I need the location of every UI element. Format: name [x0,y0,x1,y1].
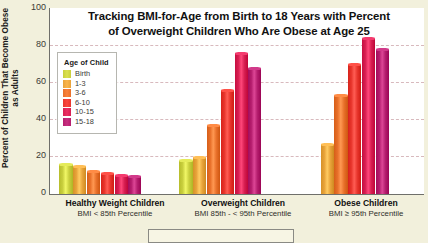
bar[interactable] [59,164,72,194]
bar-cap [348,63,361,66]
legend-label: 15-18 [75,118,94,126]
x-axis-group-label: Obese ChildrenBMI ≥ 95th Percentile [296,198,428,219]
legend-swatch-icon [63,70,71,78]
bar-cap [334,94,347,97]
y-tick-100: 100 [18,2,46,12]
bar[interactable] [179,161,192,194]
legend-label: 10-15 [75,108,94,116]
y-tick-40: 40 [18,113,46,123]
legend-label: Birth [75,70,90,78]
legend-swatch-icon [63,108,71,116]
legend-item[interactable]: 10-15 [63,108,109,116]
bar-cap [321,143,334,146]
legend-label: 3-6 [75,89,86,97]
bar-cap [73,165,86,168]
legend-title: Age of Child [64,58,109,67]
bar-cap [59,163,72,166]
y-axis-tick-labels: 100806040200 [14,0,46,200]
legend-swatch-icon [63,80,71,88]
legend-swatch-icon [63,89,71,97]
x-label-primary: Obese Children [296,198,428,209]
bar-cap [235,52,248,55]
bar-cap [179,159,192,162]
legend-item[interactable]: 1-3 [63,80,109,88]
bar[interactable] [128,176,141,194]
chart-title: Tracking BMI-for-Age from Birth to 18 Ye… [56,9,422,38]
legend-item[interactable]: 3-6 [63,89,109,97]
y-tick-80: 80 [18,39,46,49]
legend-label: 6-10 [75,99,90,107]
x-label-secondary: BMI 85th - < 95th Percentile [173,209,313,219]
chart-title-line-1: Tracking BMI-for-Age from Birth to 18 Ye… [56,9,422,24]
bar-cap [248,67,261,70]
legend-swatch-icon [63,118,71,126]
bar-cap [87,170,100,173]
bar[interactable] [221,90,234,194]
bar-cap [115,174,128,177]
x-axis-group-label: Healthy Weight ChildrenBMI < 85th Percen… [45,198,185,219]
legend: Age of Child Birth1-33-66-1010-1515-18 [57,52,117,134]
x-label-secondary: BMI < 85th Percentile [45,209,185,219]
bar-cap [376,48,389,51]
bar[interactable] [376,50,389,194]
x-axis-group-label: Overweight ChildrenBMI 85th - < 95th Per… [173,198,313,219]
bar[interactable] [348,65,361,195]
legend-label: 1-3 [75,80,86,88]
y-tick-20: 20 [18,150,46,160]
x-label-primary: Overweight Children [173,198,313,209]
bar[interactable] [115,176,128,195]
y-tick-0: 0 [18,187,46,197]
legend-item[interactable]: 15-18 [63,118,109,126]
bar[interactable] [321,144,334,194]
bar[interactable] [207,126,220,194]
legend-item[interactable]: 6-10 [63,99,109,107]
bar[interactable] [87,172,100,194]
x-label-secondary: BMI ≥ 95th Percentile [296,209,428,219]
bar[interactable] [73,166,86,194]
bar[interactable] [248,68,261,194]
bar-cap [128,175,141,178]
bar[interactable] [235,53,248,194]
legend-items: Birth1-33-66-1010-1515-18 [63,70,109,126]
bar[interactable] [334,96,347,194]
legend-item[interactable]: Birth [63,70,109,78]
bar[interactable] [101,174,114,194]
bar-cap [221,89,234,92]
bar[interactable] [193,157,206,194]
legend-swatch-icon [63,99,71,107]
footer-box [148,229,294,243]
bar-cap [101,172,114,175]
x-label-primary: Healthy Weight Children [45,198,185,209]
bar-cap [207,124,220,127]
y-tick-60: 60 [18,76,46,86]
chart-title-line-2: of Overweight Children Who Are Obese at … [56,24,422,39]
bar[interactable] [362,39,375,194]
bar-cap [193,156,206,159]
